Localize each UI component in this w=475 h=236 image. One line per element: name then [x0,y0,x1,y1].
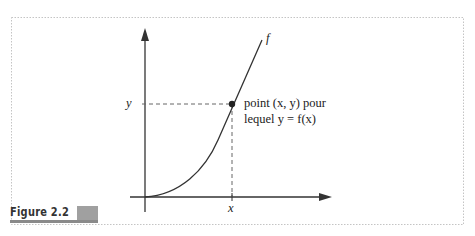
x-tick-label: x [228,201,234,216]
annotation-line-1: point (x, y) pour [244,96,326,111]
diagram-canvas [0,0,475,236]
figure-label: Figure 2.2 [10,205,69,219]
figure-label-bar [77,206,98,220]
x-axis-arrow-icon [319,193,332,201]
curve-label: f [266,31,269,46]
annotation-line-2: lequel y = f(x) [244,112,316,127]
y-axis-arrow-icon [141,28,149,41]
y-tick-label: y [126,96,132,111]
point-marker [229,101,235,107]
figure-label-underline [10,220,98,223]
figure-frame [12,18,464,225]
